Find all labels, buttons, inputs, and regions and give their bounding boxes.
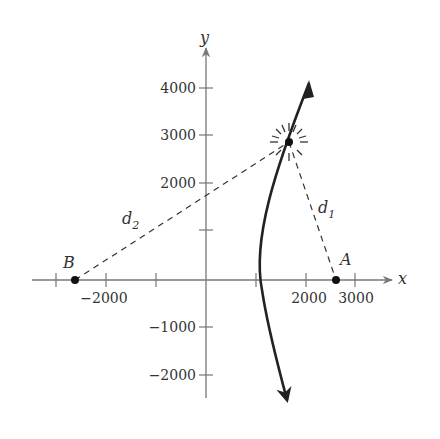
x-tick-label: 2000 — [291, 290, 327, 306]
hyperbola-diagram: 4000 3000 2000 −1000 −2000 −2000 2000 30… — [0, 0, 440, 439]
y-tick-label: 4000 — [160, 80, 196, 96]
x-axis-label: x — [398, 269, 407, 288]
y-tick-label: 2000 — [160, 175, 196, 191]
d1-label: d1 — [318, 198, 335, 221]
y-tick-label: −1000 — [149, 319, 196, 335]
curve-arrow-top-icon — [303, 80, 314, 99]
point-a — [332, 276, 340, 284]
d2-line — [75, 142, 289, 280]
y-tick-label: −2000 — [149, 367, 196, 383]
explosion-point — [285, 138, 293, 146]
point-b — [71, 276, 79, 284]
x-tick-label: −2000 — [80, 290, 127, 306]
point-a-label: A — [338, 250, 352, 269]
point-b-label: B — [62, 253, 75, 272]
x-tick-label: 3000 — [338, 290, 374, 306]
y-axis-label: y — [199, 28, 210, 47]
d2-label: d2 — [122, 209, 139, 232]
diagram-canvas: 4000 3000 2000 −1000 −2000 −2000 2000 30… — [0, 0, 440, 439]
y-tick-label: 3000 — [160, 127, 196, 143]
